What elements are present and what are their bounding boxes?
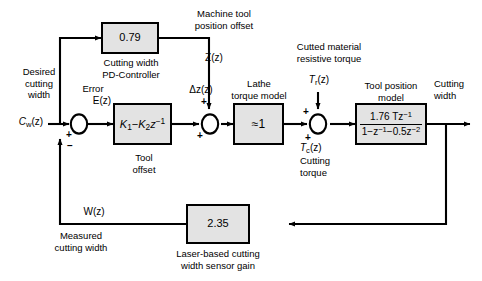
denominator-term-b-exponent: −2 <box>412 125 421 134</box>
machine-offset-line1: Machine tool <box>176 8 272 20</box>
position-offset-gain-value: 0.79 <box>119 32 140 44</box>
tool-offset-line2: offset <box>122 164 166 176</box>
transfer-function-numerator: 1.76 Tz−1 <box>368 111 414 124</box>
position-offset-gain-block[interactable]: 0.79 <box>101 22 159 54</box>
measured-line1: Measured <box>32 230 130 242</box>
sensor-caption-line1: Laser-based cutting <box>154 248 282 260</box>
sensor-gain-caption: Laser-based cutting width sensor gain <box>154 248 282 271</box>
pd-controller-expression: K1−K2z−1 <box>120 117 165 131</box>
cutting-torque-line1: Cutting <box>300 155 350 167</box>
denominator-term-a-exponent: −1 <box>378 125 387 134</box>
error-junction-minus-sign: – <box>67 141 73 151</box>
output-line1: Cutting <box>434 78 482 90</box>
pd-controller-caption-line1: Cutting width <box>89 57 173 69</box>
error-label: Error <box>73 83 113 95</box>
tool-position-transfer-function: 1.76 Tz−1 1−z−1−0.5z−2 <box>360 111 423 137</box>
torque-summing-junction[interactable] <box>308 110 328 138</box>
lathe-torque-model-block[interactable]: ≈1 <box>233 103 284 145</box>
measured-line2: cutting width <box>32 242 130 254</box>
sensor-gain-block[interactable]: 2.35 <box>186 204 250 244</box>
output-line2: width <box>434 90 482 102</box>
error-signal-symbol: E(z) <box>84 95 120 107</box>
z-signal-symbol: Z(z) <box>196 52 232 64</box>
error-summing-junction[interactable] <box>69 110 89 138</box>
pd-z-exponent: −1 <box>156 116 166 126</box>
reference-input-label: Desired cutting width <box>10 66 68 101</box>
tool-position-caption-line2: model <box>350 92 432 104</box>
reference-symbol-base: C <box>19 116 26 127</box>
reference-label-line2: cutting <box>10 78 68 90</box>
pd-controller-caption: Cutting width PD-Controller <box>89 57 173 80</box>
offset-summing-junction[interactable] <box>200 110 220 138</box>
block-diagram: 0.79 K1−K2z−1 ≈1 1.76 Tz−1 1−z−1−0.5z−2 … <box>0 0 482 281</box>
sensor-caption-line2: width sensor gain <box>154 260 282 272</box>
lathe-torque-model-caption: Lathe torque model <box>219 78 299 101</box>
tool-offset-line1: Tool <box>122 152 166 164</box>
lathe-caption-line1: Lathe <box>219 78 299 90</box>
machine-offset-line2: position offset <box>176 20 272 32</box>
resistive-torque-label: Cutted material resistive torque <box>281 41 377 64</box>
cutting-torque-symbol: Tc(z) <box>300 142 346 155</box>
denominator-term-a: 1−z <box>362 126 378 137</box>
tool-position-model-block[interactable]: 1.76 Tz−1 1−z−1−0.5z−2 <box>355 103 427 145</box>
numerator-text: 1.76 Tz <box>370 111 403 122</box>
lathe-caption-line2: torque model <box>219 90 299 102</box>
tool-position-model-caption: Tool position model <box>350 80 432 103</box>
tool-offset-label: Tool offset <box>122 152 166 175</box>
tr-symbol-tail: (z) <box>317 74 329 85</box>
tc-symbol-tail: (z) <box>310 142 322 153</box>
denominator-term-b: −0.5z <box>387 126 412 137</box>
machine-tool-offset-label: Machine tool position offset <box>176 8 272 31</box>
resistive-torque-line2: resistive torque <box>281 53 377 65</box>
measured-width-label: Measured cutting width <box>32 230 130 253</box>
pd-gain-k2: K <box>138 117 145 129</box>
reference-label-line1: Desired <box>10 66 68 78</box>
sensor-gain-value: 2.35 <box>207 218 228 230</box>
tool-position-caption-line1: Tool position <box>350 80 432 92</box>
feedback-signal-symbol: W(z) <box>73 206 115 218</box>
reference-signal-symbol: Cw(z) <box>10 116 52 129</box>
torque-junction-plus-sign: + <box>303 107 309 117</box>
resistive-torque-line1: Cutted material <box>281 41 377 53</box>
reference-label-line3: width <box>10 89 68 101</box>
output-label: Cutting width <box>434 78 482 101</box>
delta-z-signal-symbol: Δz(z) <box>178 84 224 96</box>
cutting-torque-label: Cutting torque <box>300 155 350 178</box>
numerator-exponent: −1 <box>403 110 412 119</box>
offset-junction-top-plus-sign: + <box>201 97 207 107</box>
resistive-torque-symbol: Tr(z) <box>302 74 336 87</box>
cutting-torque-line2: torque <box>300 167 350 179</box>
error-junction-plus-sign: + <box>66 130 72 140</box>
pd-controller-caption-line2: PD-Controller <box>89 69 173 81</box>
transfer-function-denominator: 1−z−1−0.5z−2 <box>360 124 423 138</box>
pd-controller-block[interactable]: K1−K2z−1 <box>113 103 172 145</box>
lathe-torque-model-value: ≈1 <box>252 118 265 131</box>
offset-junction-plus-sign: + <box>197 131 203 141</box>
reference-symbol-tail: (z) <box>32 116 44 127</box>
